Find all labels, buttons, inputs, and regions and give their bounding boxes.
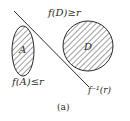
- label-f-d-geq-r: f(D)≥r: [48, 8, 81, 18]
- label-region-d: D: [84, 42, 92, 52]
- figure-caption: (a): [57, 103, 69, 112]
- label-f-a-leq-r: f(A)≤r: [12, 77, 44, 87]
- label-inverse-image: f⁻¹(r): [88, 86, 111, 95]
- label-region-a: A: [19, 45, 26, 55]
